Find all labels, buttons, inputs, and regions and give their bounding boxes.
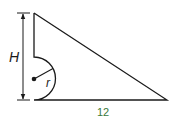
triangle-semicircle-figure: H r 12 — [0, 0, 179, 123]
base-label: 12 — [97, 106, 109, 118]
triangle-outline — [34, 13, 167, 100]
radius-label: r — [46, 76, 51, 90]
height-label: H — [9, 49, 20, 65]
radius-line — [34, 69, 53, 80]
